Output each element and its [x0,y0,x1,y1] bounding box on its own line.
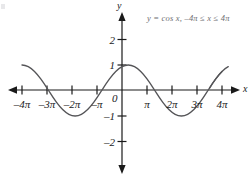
x-tick-label-neg4pi: –4π [14,99,31,110]
x-tick-label-neg3pi: –3π [39,99,56,110]
origin-label: 0 [112,93,118,104]
cosine-curve-tail [210,67,229,88]
y-axis-label: y [117,1,121,11]
equation-annotation: y = cos x, –4π ≤ x ≤ 4π [147,14,230,23]
x-tick-label-2pi: 2π [166,99,177,110]
x-axis-label: x [243,84,247,94]
y-tick-label-neg2: –2 [98,137,115,148]
y-tick-label-2: 2 [101,35,115,46]
x-tick-label-4pi: 4π [216,99,227,110]
x-axis [8,86,240,94]
x-tick-label-pi: π [144,99,150,110]
cosine-graph-figure: y = cos x, –4π ≤ x ≤ 4π y x 0 –4π –3π –2… [0,0,252,176]
y-axis [118,12,125,174]
x-tick-label-neg2pi: –2π [64,99,81,110]
x-tick-label-3pi: 3π [191,99,202,110]
y-tick-label-1: 1 [101,60,115,71]
y-tick-label-neg1: –1 [98,111,115,122]
plot-canvas [0,0,252,176]
x-tick-label-negpi: –π [91,99,102,110]
